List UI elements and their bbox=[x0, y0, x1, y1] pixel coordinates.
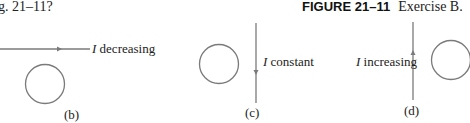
loop-c bbox=[200, 45, 239, 84]
current-symbol: I bbox=[92, 41, 96, 56]
current-label-b: I decreasing bbox=[92, 41, 155, 57]
loop-b bbox=[26, 65, 65, 104]
panel-label-d: (d) bbox=[404, 103, 419, 119]
current-label-d: I increasing bbox=[356, 54, 417, 70]
current-label-c: I constant bbox=[263, 54, 314, 70]
panel-b bbox=[0, 47, 90, 104]
loop-d bbox=[432, 41, 470, 80]
panel-label-c: (c) bbox=[245, 105, 259, 121]
current-symbol: I bbox=[356, 54, 360, 69]
panel-c bbox=[200, 23, 259, 103]
arrow-right-icon bbox=[57, 47, 62, 52]
current-state: increasing bbox=[364, 54, 417, 69]
current-state: constant bbox=[271, 54, 314, 69]
panel-d bbox=[411, 22, 470, 100]
current-symbol: I bbox=[263, 54, 267, 69]
arrow-down-icon bbox=[254, 70, 259, 75]
panel-label-b: (b) bbox=[64, 107, 79, 123]
current-state: decreasing bbox=[100, 41, 156, 56]
